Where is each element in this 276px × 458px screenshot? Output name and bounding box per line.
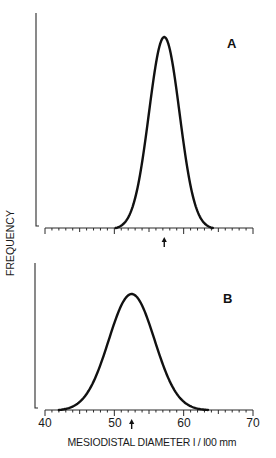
panel-a-y-axis [36, 13, 39, 226]
frequency-distribution-chart: FREQUENCY A B 40 50 60 70 MESIODISTAL DI… [0, 0, 276, 458]
panel-a-mean-arrow-icon [162, 237, 167, 247]
x-tick-label-50: 50 [108, 416, 122, 430]
x-tick-label-60: 60 [177, 416, 191, 430]
panel-b-mean-arrow-icon [129, 419, 134, 429]
x-tick-label-70: 70 [246, 416, 260, 430]
x-axis-title: MESIODISTAL DIAMETER l / l00 mm [68, 436, 237, 448]
y-axis-title: FREQUENCY [4, 210, 16, 276]
panel-b-y-axis [35, 263, 38, 408]
panel-a-distribution-curve [116, 37, 213, 228]
panel-b: B 40 50 60 70 [35, 263, 260, 430]
panel-a-x-ticks [45, 228, 253, 234]
panel-b-label: B [223, 291, 232, 306]
panel-b-x-ticks [45, 410, 253, 416]
panel-a: A [36, 13, 253, 247]
panel-b-distribution-curve [59, 294, 208, 410]
x-tick-label-40: 40 [38, 416, 52, 430]
panel-a-label: A [227, 36, 237, 51]
